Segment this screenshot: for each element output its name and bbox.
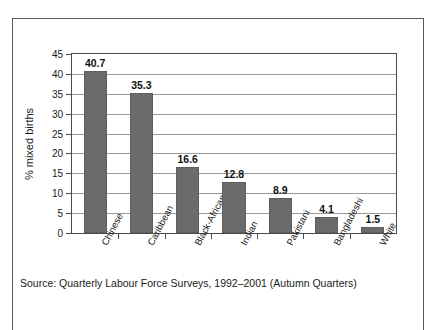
y-axis-tick-label: 35 <box>52 88 63 99</box>
x-axis-tick <box>303 233 304 239</box>
y-axis-tick-label: 40 <box>52 68 63 79</box>
y-axis-tick-label: 25 <box>52 128 63 139</box>
y-axis-title-label: % mixed births <box>23 107 35 179</box>
x-axis-tick <box>165 233 166 239</box>
x-axis-tick <box>211 233 212 239</box>
bar-value-label: 4.1 <box>319 203 334 215</box>
y-axis-tick <box>66 233 72 234</box>
y-axis-tick <box>66 74 72 75</box>
y-axis-tick-label: 0 <box>57 228 63 239</box>
y-axis-tick-label: 5 <box>57 208 63 219</box>
y-axis-tick <box>66 173 72 174</box>
y-axis-tick <box>66 54 72 55</box>
y-axis-tick <box>66 153 72 154</box>
gridline <box>72 153 396 154</box>
gridline <box>72 134 396 135</box>
bar-value-label: 40.7 <box>85 57 105 69</box>
bar-black-african[interactable]: 16.6 <box>176 167 199 233</box>
gridline <box>72 114 396 115</box>
y-axis-tick <box>66 134 72 135</box>
y-axis-tick-label: 30 <box>52 108 63 119</box>
plot-area: 05101520253035404540.7Chinese35.3Caribbe… <box>71 53 397 234</box>
bar-value-label: 12.8 <box>224 168 244 180</box>
bar-caribbean[interactable]: 35.3 <box>130 93 153 233</box>
bar-bangladeshi[interactable]: 4.1 <box>315 217 338 233</box>
x-axis-tick <box>118 233 119 239</box>
y-axis-tick-label: 10 <box>52 188 63 199</box>
y-axis-tick-label: 45 <box>52 49 63 60</box>
y-axis-tick <box>66 213 72 214</box>
bar-chinese[interactable]: 40.7 <box>84 71 107 233</box>
bar-value-label: 8.9 <box>273 184 288 196</box>
y-axis-tick <box>66 114 72 115</box>
x-axis-tick <box>350 233 351 239</box>
y-axis-title: % mixed births <box>21 53 37 234</box>
bar-pakistani[interactable]: 8.9 <box>269 198 292 233</box>
gridline <box>72 94 396 95</box>
bar-value-label: 1.5 <box>366 213 381 225</box>
bar-value-label: 16.6 <box>177 153 197 165</box>
bar-indian[interactable]: 12.8 <box>222 182 245 233</box>
y-axis-tick <box>66 94 72 95</box>
y-axis-tick-label: 15 <box>52 168 63 179</box>
x-axis-tick <box>257 233 258 239</box>
bar-value-label: 35.3 <box>131 79 151 91</box>
gridline <box>72 74 396 75</box>
source-note: Source: Quarterly Labour Force Surveys, … <box>20 277 357 289</box>
y-axis-tick-label: 20 <box>52 148 63 159</box>
y-axis-tick <box>66 193 72 194</box>
